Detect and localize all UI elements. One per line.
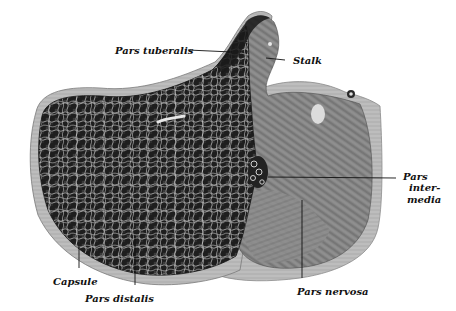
label-pars-intermedia-line3: media	[407, 194, 441, 205]
label-stalk: Stalk	[293, 55, 322, 66]
vessel-spot	[311, 104, 325, 124]
label-pars-distalis: Pars distalis	[85, 293, 154, 304]
label-pars-nervosa: Pars nervosa	[297, 286, 369, 297]
label-pars-tuberalis: Pars tuberalis	[115, 45, 193, 56]
histology-drawing	[0, 0, 456, 311]
pars-intermedia-cluster	[248, 156, 268, 188]
label-pars-intermedia-line2: inter-	[409, 182, 440, 193]
label-pars-intermedia-line1: Pars	[403, 171, 428, 182]
label-capsule: Capsule	[53, 276, 98, 287]
pituitary-illustration: Pars tuberalis Stalk Pars inter- media C…	[0, 0, 456, 311]
